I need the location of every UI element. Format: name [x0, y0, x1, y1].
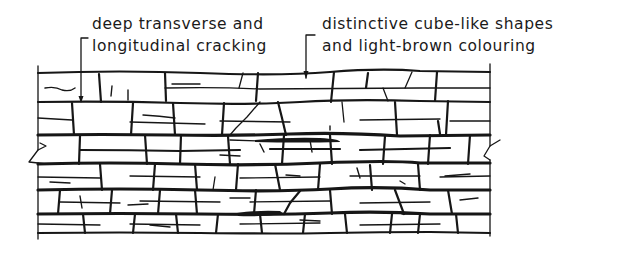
right-break-mark-icon — [484, 140, 500, 160]
annotation-cube-shapes-line-1: distinctive cube-like shapes — [322, 15, 553, 33]
annotation-cracking: deep transverse and longitudinal crackin… — [79, 15, 267, 103]
annotation-cube-shapes-line-2: and light-brown colouring — [322, 37, 536, 55]
wide-crack-patch-upper — [255, 138, 340, 143]
annotation-cracking-line-1: deep transverse and — [92, 15, 264, 33]
annotation-cube-shapes: distinctive cube-like shapes and light-b… — [304, 15, 554, 79]
cracked-pavement-diagram: deep transverse and longitudinal crackin… — [0, 0, 618, 257]
annotation-cracking-line-2: longitudinal cracking — [92, 37, 267, 55]
pavement-blocks — [29, 64, 500, 239]
leader-arrow-cracking — [79, 38, 89, 103]
